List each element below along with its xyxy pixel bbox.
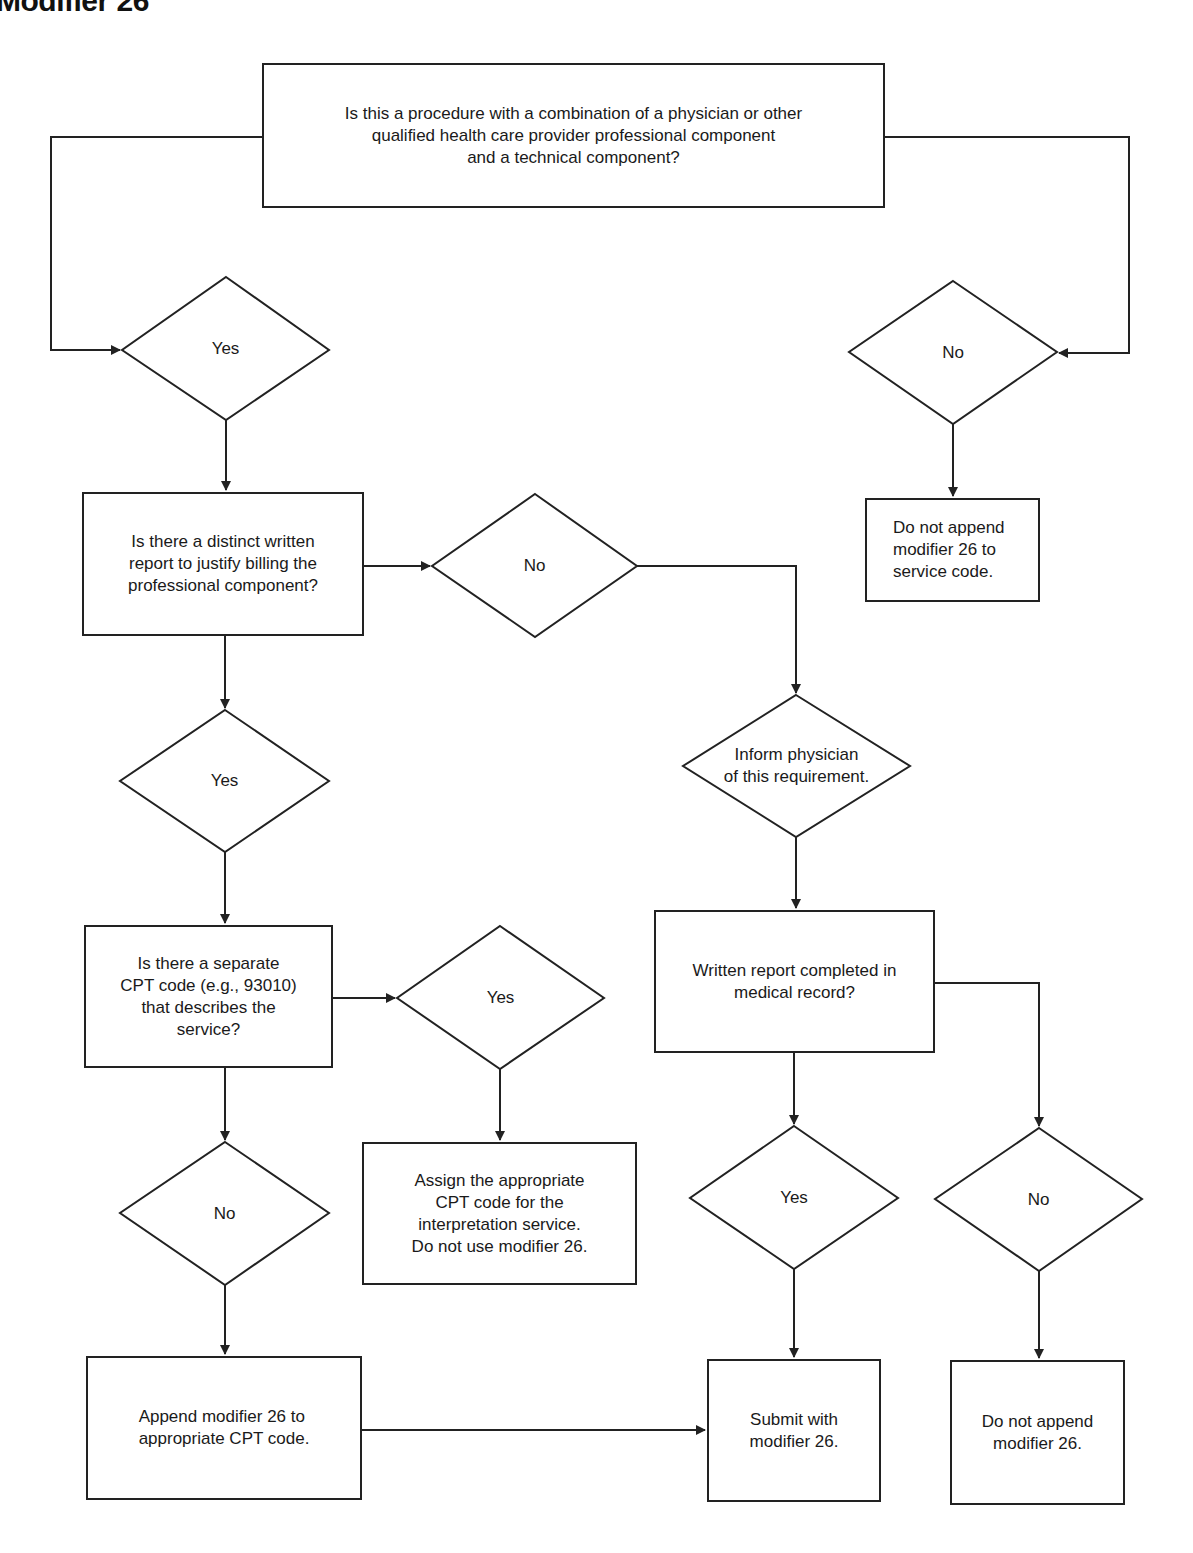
decision-text: No xyxy=(214,1203,236,1225)
decision-text: No xyxy=(524,555,546,577)
report-question-text: Is there a distinct written report to ju… xyxy=(128,531,318,597)
decision-label-no-3: No xyxy=(120,1142,329,1285)
submit-modifier-text: Submit with modifier 26. xyxy=(750,1409,839,1453)
written-report-question-box: Written report completed in medical reco… xyxy=(654,910,935,1053)
end-no-service-text: Do not append modifier 26 to service cod… xyxy=(893,517,1005,583)
decision-label-yes-2: Yes xyxy=(120,710,329,852)
cpt-question-box: Is there a separate CPT code (e.g., 9301… xyxy=(84,925,333,1068)
cpt-question-text: Is there a separate CPT code (e.g., 9301… xyxy=(120,953,296,1041)
assign-cpt-box: Assign the appropriate CPT code for the … xyxy=(362,1142,637,1285)
decision-label-yes-3: Yes xyxy=(397,926,604,1069)
decision-text: Yes xyxy=(780,1187,808,1209)
decision-text: No xyxy=(942,342,964,364)
decision-label-yes-4: Yes xyxy=(690,1126,898,1269)
decision-text: Yes xyxy=(212,338,240,360)
do-not-append-text: Do not append modifier 26. xyxy=(982,1411,1094,1455)
decision-label-yes-1: Yes xyxy=(122,277,329,420)
decision-label-no-4: No xyxy=(935,1128,1142,1271)
submit-modifier-box: Submit with modifier 26. xyxy=(707,1359,881,1502)
start-question-text: Is this a procedure with a combination o… xyxy=(345,103,802,169)
decision-label-no-1: No xyxy=(849,281,1057,424)
decision-label-no-2: No xyxy=(432,494,637,637)
append-modifier-box: Append modifier 26 to appropriate CPT co… xyxy=(86,1356,362,1500)
decision-label-inform: Inform physician of this requirement. xyxy=(683,695,910,837)
decision-text: No xyxy=(1028,1189,1050,1211)
decision-text: Inform physician of this requirement. xyxy=(724,744,870,788)
append-modifier-text: Append modifier 26 to appropriate CPT co… xyxy=(139,1406,310,1450)
start-question-box: Is this a procedure with a combination o… xyxy=(262,63,885,208)
written-report-question-text: Written report completed in medical reco… xyxy=(693,960,897,1004)
end-no-service-box: Do not append modifier 26 to service cod… xyxy=(865,498,1040,602)
assign-cpt-text: Assign the appropriate CPT code for the … xyxy=(412,1170,588,1258)
report-question-box: Is there a distinct written report to ju… xyxy=(82,492,364,636)
decision-text: Yes xyxy=(487,987,515,1009)
decision-text: Yes xyxy=(211,770,239,792)
do-not-append-box: Do not append modifier 26. xyxy=(950,1360,1125,1505)
